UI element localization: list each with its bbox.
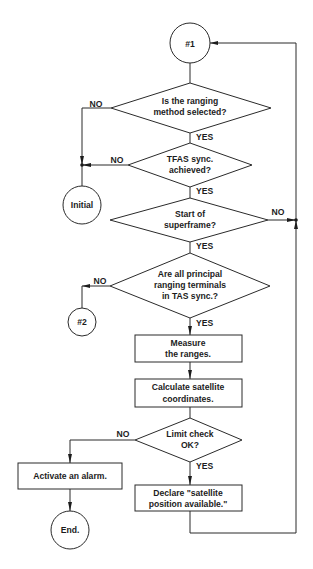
decision-text: Limit check [166,429,214,439]
process-calculate-coordinates: Calculate satellite coordinates. [135,379,242,407]
decision-tfas-sync: TFAS sync. achieved? NO YES [111,143,252,196]
yes-label: YES [196,186,213,196]
yes-label: YES [196,132,213,142]
arrow-left-icon [210,41,218,45]
terminal-end: End. [51,511,89,549]
process-text: Calculate satellite [152,382,225,392]
no-label: NO [111,155,124,165]
decision-text: Is the ranging [162,96,218,106]
decision-text: TFAS sync. [167,154,213,164]
connector-label: #2 [77,317,87,327]
decision-text: method selected? [153,107,226,117]
decision-text: superframe? [164,220,216,230]
process-declare-position: Declare "satellite position available." [135,485,242,511]
terminal-label: Initial [71,200,93,210]
decision-text: Start of [175,209,205,219]
junction-dot [294,218,298,222]
decision-text: in TAS sync.? [162,291,218,301]
process-text: Declare "satellite [153,488,223,498]
arrow-down-icon [68,502,72,511]
yes-label: YES [196,461,213,471]
arrow-left-icon [82,284,90,288]
process-measure-ranges: Measure the ranges. [135,335,242,362]
arrow-down-icon [188,476,192,485]
arrow-down-icon [68,454,72,463]
decision-ranging-method: Is the ranging method selected? NO YES [90,83,271,142]
yes-label: YES [196,241,213,251]
no-label: NO [94,276,107,286]
decision-text: Are all principal [158,269,222,279]
connector-branch-2: #2 [68,308,96,336]
arrow-down-icon [188,370,192,379]
yes-label: YES [196,318,213,328]
process-text: Measure [171,338,206,348]
decision-limit-check: Limit check OK? NO YES [117,418,242,471]
decision-text: achieved? [169,165,211,175]
terminal-initial: Initial [63,186,101,224]
process-text: Activate an alarm. [33,471,107,481]
arrow-down-icon [188,326,192,335]
junction-dot [80,163,84,167]
decision-text: OK? [181,440,199,450]
no-label: NO [272,207,285,217]
connector-label: #1 [185,39,195,49]
no-label: NO [117,429,130,439]
process-text: position available." [149,499,228,509]
no-label: NO [90,99,103,109]
connector-start-1: #1 [170,23,210,63]
process-text: the ranges. [165,349,211,359]
decision-principal-terminals: Are all principal ranging terminals in T… [94,253,270,328]
flowchart-canvas: #1 Is the ranging method selected? NO YE… [0,0,313,569]
decision-text: ranging terminals [154,280,226,290]
decision-start-superframe: Start of superframe? NO YES [110,198,285,251]
terminal-label: End. [61,525,80,535]
process-text: coordinates. [162,394,213,404]
process-activate-alarm: Activate an alarm. [18,463,122,489]
